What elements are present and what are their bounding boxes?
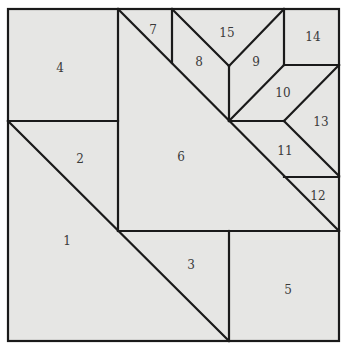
piece-label-6: 6 [177,150,185,164]
piece-label-7: 7 [149,23,157,37]
piece-label-10: 10 [275,86,290,100]
piece-label-3: 3 [187,258,195,272]
quilt-block-diagram: 1 2 3 4 5 6 7 8 9 10 11 12 13 14 15 [0,0,345,348]
piece-label-14: 14 [305,30,321,44]
piece-label-11: 11 [277,144,292,158]
piece-label-9: 9 [252,55,260,69]
piece-label-15: 15 [219,26,234,40]
piece-label-4: 4 [56,61,64,75]
piece-label-12: 12 [310,189,325,203]
piece-label-1: 1 [63,234,71,248]
piece-label-2: 2 [76,152,84,166]
piece-label-5: 5 [284,283,292,297]
piece-label-13: 13 [313,115,328,129]
piece-label-8: 8 [195,55,203,69]
